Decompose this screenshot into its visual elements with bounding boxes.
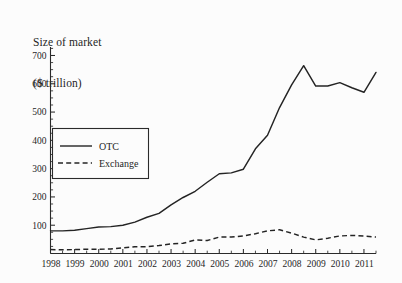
y-tick-label-500: 500 xyxy=(32,107,47,117)
x-tick-label-2006: 2006 xyxy=(234,259,253,269)
y-tick-label-700: 700 xyxy=(32,51,47,61)
x-tick-label-2002: 2002 xyxy=(138,259,157,269)
chart-legend: OTC Exchange xyxy=(53,129,149,179)
y-axis-tick-labels: 100200300400500600700 xyxy=(32,51,47,231)
x-tick-label-1998: 1998 xyxy=(42,259,61,269)
x-tick-label-2001: 2001 xyxy=(114,259,133,269)
series-line-exchange xyxy=(51,230,377,250)
line-chart-plot: 100200300400500600700 199819992000200120… xyxy=(0,0,402,283)
x-tick-label-2000: 2000 xyxy=(90,259,109,269)
x-tick-label-1999: 1999 xyxy=(66,259,85,269)
x-tick-label-2004: 2004 xyxy=(186,259,205,269)
y-tick-label-600: 600 xyxy=(32,79,47,89)
x-axis-tick-labels: 1998199920002001200220032004200520062007… xyxy=(42,259,375,269)
x-tick-label-2009: 2009 xyxy=(307,259,326,269)
x-tick-label-2008: 2008 xyxy=(283,259,302,269)
y-tick-label-300: 300 xyxy=(32,164,47,174)
x-tick-label-2005: 2005 xyxy=(210,259,229,269)
y-tick-label-100: 100 xyxy=(32,221,47,231)
legend-box xyxy=(53,129,149,179)
x-tick-label-2007: 2007 xyxy=(259,259,278,269)
legend-label-otc: OTC xyxy=(99,141,119,152)
y-tick-label-400: 400 xyxy=(32,136,47,146)
x-tick-label-2010: 2010 xyxy=(331,259,350,269)
x-tick-label-2011: 2011 xyxy=(355,259,374,269)
y-tick-label-200: 200 xyxy=(32,192,47,202)
chart-page: Size of market ($ trillion) 100200300400… xyxy=(0,0,402,283)
x-tick-label-2003: 2003 xyxy=(162,259,181,269)
legend-label-exchange: Exchange xyxy=(99,158,139,169)
